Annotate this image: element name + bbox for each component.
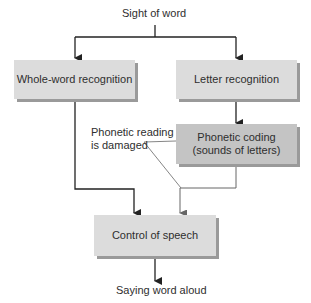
node-label-line2: (sounds of letters) <box>192 144 280 157</box>
annotation-line2: is damaged <box>91 139 174 152</box>
input-label-sight-of-word: Sight of word <box>122 7 186 20</box>
arrow-wholeword-to-control <box>75 101 134 213</box>
node-label: Control of speech <box>112 229 198 242</box>
node-whole-word-recognition: Whole-word recognition <box>14 60 135 99</box>
node-label-line1: Phonetic coding <box>197 131 275 144</box>
annotation-phonetic-damaged: Phonetic reading is damaged <box>91 126 174 152</box>
node-phonetic-coding: Phonetic coding (sounds of letters) <box>176 124 297 164</box>
arrow-phonetic-to-control <box>180 166 236 213</box>
node-control-of-speech: Control of speech <box>94 215 216 256</box>
node-label: Letter recognition <box>194 73 279 86</box>
node-label: Whole-word recognition <box>17 73 133 86</box>
split-arrows <box>75 25 236 58</box>
annotation-line1: Phonetic reading <box>91 126 174 139</box>
output-label-saying-word-aloud: Saying word aloud <box>116 284 207 297</box>
node-letter-recognition: Letter recognition <box>176 60 297 99</box>
